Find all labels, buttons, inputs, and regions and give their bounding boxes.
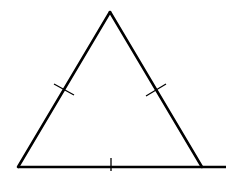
triangle-figure bbox=[0, 0, 226, 171]
congruence-tick-left bbox=[54, 84, 74, 95]
congruence-tick-right bbox=[146, 84, 166, 96]
